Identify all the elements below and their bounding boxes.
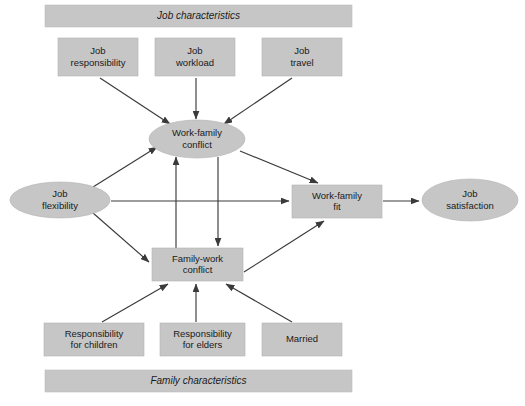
node-label-job-responsibility-line2: responsibility [71, 57, 126, 68]
nodes-layer: JobresponsibilityJobworkloadJobtravelWor… [10, 38, 518, 356]
banner-bottom: Family characteristics [45, 370, 352, 392]
banner-top: Job characteristics [45, 5, 352, 27]
node-job-responsibility: Jobresponsibility [58, 38, 138, 76]
node-work-family-conflict: Work-familyconflict [149, 120, 245, 158]
node-family-work-conflict: Family-workconflict [152, 248, 243, 281]
node-label-job-satisfaction-line1: Job [462, 188, 477, 199]
model-diagram: JobresponsibilityJobworkloadJobtravelWor… [0, 0, 525, 406]
node-work-family-fit: Work-familyfit [292, 185, 382, 218]
node-job-travel: Jobtravel [262, 38, 342, 76]
node-label-responsibility-for-elders-line2: for elders [183, 339, 223, 350]
edge-job-travel-to-work-family-conflict [224, 78, 292, 124]
node-label-family-work-conflict-line1: Family-work [172, 253, 223, 264]
node-label-family-work-conflict-line2: conflict [183, 264, 213, 275]
node-label-responsibility-for-children-line2: for children [71, 339, 118, 350]
node-label-job-travel-line2: travel [290, 57, 313, 68]
node-label-responsibility-for-elders-line1: Responsibility [173, 328, 232, 339]
node-label-job-workload-line1: Job [187, 45, 202, 56]
node-label-job-flexibility-line1: Job [52, 188, 67, 199]
node-label-job-satisfaction-line2: satisfaction [446, 200, 494, 211]
edge-job-flexibility-to-family-work-conflict [93, 213, 149, 262]
node-job-workload: Jobworkload [155, 38, 235, 76]
node-label-work-family-conflict-line1: Work-family [172, 127, 222, 138]
banner-top-label: Job characteristics [156, 10, 240, 21]
node-label-job-responsibility-line1: Job [90, 45, 105, 56]
node-label-married-line1: Married [286, 333, 318, 344]
edge-married-to-family-work-conflict [226, 284, 292, 322]
node-label-work-family-fit-line1: Work-family [312, 190, 362, 201]
node-job-flexibility: Jobflexibility [10, 182, 110, 218]
node-job-satisfaction: Jobsatisfaction [422, 179, 518, 221]
node-label-job-workload-line2: workload [175, 57, 214, 68]
node-responsibility-for-elders: Responsibilityfor elders [160, 323, 245, 356]
node-label-work-family-conflict-line2: conflict [182, 139, 212, 150]
diagram-canvas: JobresponsibilityJobworkloadJobtravelWor… [0, 0, 525, 406]
node-married: Married [262, 323, 342, 356]
edge-family-work-conflict-to-work-family-fit [244, 221, 324, 272]
edge-job-responsibility-to-work-family-conflict [100, 78, 170, 124]
node-label-work-family-fit-line2: fit [333, 201, 341, 212]
node-label-job-flexibility-line2: flexibility [42, 200, 78, 211]
edge-responsibility-for-children-to-family-work-conflict [102, 284, 168, 322]
edge-job-flexibility-to-work-family-conflict [93, 147, 157, 187]
node-label-job-travel-line1: Job [294, 45, 309, 56]
node-label-responsibility-for-children-line1: Responsibility [65, 328, 124, 339]
edge-work-family-conflict-to-work-family-fit [240, 151, 318, 183]
node-responsibility-for-children: Responsibilityfor children [44, 323, 144, 356]
banner-bottom-label: Family characteristics [150, 375, 246, 386]
